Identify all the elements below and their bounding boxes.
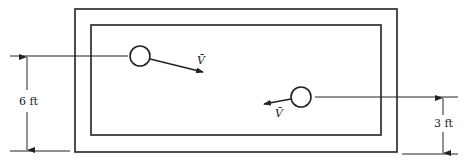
right-dimension-label: 3 ft <box>434 117 454 130</box>
right-jet-circle <box>291 87 311 107</box>
left-dimension-label: 6 ft <box>19 95 39 108</box>
left-velocity-label: V̄ <box>197 54 206 67</box>
inner-wall <box>91 25 381 135</box>
right-velocity-label: V̄ <box>275 107 284 120</box>
outer-wall <box>75 9 397 152</box>
tank-diagram: V̄ V̄ 6 ft 3 ft <box>0 0 465 161</box>
left-jet-circle <box>130 46 150 66</box>
left-velocity-arrow <box>150 59 203 72</box>
right-velocity-arrow <box>264 99 291 104</box>
